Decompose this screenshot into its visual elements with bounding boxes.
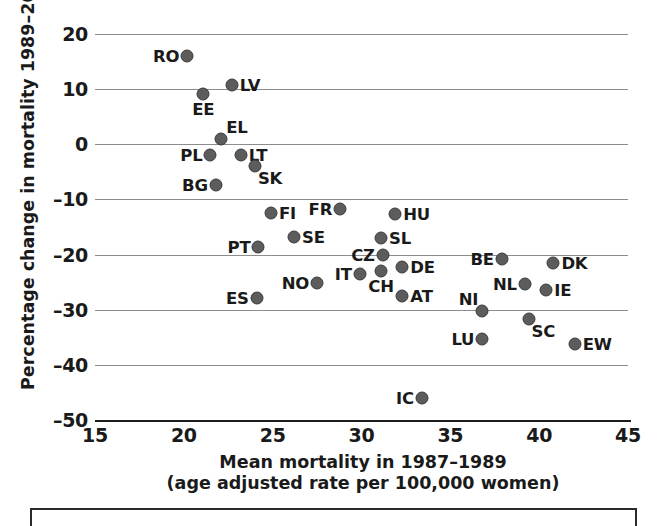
data-point-label: EE [192,100,214,119]
data-point [540,284,553,297]
data-point-label: CH [368,277,394,296]
y-axis-tick-label: –50 [18,409,88,431]
x-axis-title-line1: Mean mortality in 1987–1989 [95,452,631,473]
data-point-label: FR [309,199,333,218]
data-point [209,178,222,191]
x-axis-tick-label: 25 [260,424,286,446]
data-point-label: SK [258,168,282,187]
data-point [234,149,247,162]
data-point-label: HU [403,204,430,223]
y-axis-tick-label: –20 [18,244,88,266]
data-point-label: BG [182,175,208,194]
data-point-label: PT [228,237,251,256]
data-point-label: IC [396,389,414,408]
data-point-label: NL [493,274,517,293]
scatter-chart-figure: Percentage change in mortality 1989–2006… [0,0,667,526]
x-axis-tick-label: 30 [349,424,375,446]
y-axis-tick-label: 0 [18,133,88,155]
data-point-label: EL [226,118,247,137]
data-point-label: NO [282,274,309,293]
y-axis-tick-label: –30 [18,299,88,321]
data-point-label: SL [389,229,411,248]
data-point-label: NI [459,290,479,309]
data-point [376,248,389,261]
data-point [197,88,210,101]
data-point [518,277,531,290]
data-point [568,338,581,351]
data-point [375,232,388,245]
x-axis-tick-label: 35 [437,424,463,446]
data-point [287,230,300,243]
data-point-label: CZ [351,245,375,264]
data-point-label: EW [583,335,612,354]
data-point-label: SC [532,321,556,340]
y-axis-tick-label: –40 [18,354,88,376]
data-point-label: BE [470,249,493,268]
x-axis-line [95,420,631,422]
data-point-label: IT [335,264,352,283]
plot-area: ROLVEEELPLLTSKBGFIFRHUSESLPTCZBEDKDECHIT… [95,34,628,420]
x-axis-title-line2: (age adjusted rate per 100,000 women) [95,473,631,494]
y-axis-tick-label: 10 [18,78,88,100]
data-point [250,291,263,304]
data-point [396,261,409,274]
caption-box-right-edge [635,508,637,526]
x-axis-tick-label: 40 [526,424,552,446]
data-point [389,207,402,220]
y-axis-tick-label: 20 [18,23,88,45]
data-point-label: IE [554,281,571,300]
data-point [495,252,508,265]
data-point-label: FI [279,204,296,223]
data-point [225,79,238,92]
data-point-label: SE [302,227,325,246]
x-axis-tick-label: 20 [171,424,197,446]
x-axis-tick-label: 15 [82,424,108,446]
caption-box-left-edge [30,508,32,526]
x-axis-title: Mean mortality in 1987–1989 (age adjuste… [95,452,631,494]
data-point [334,202,347,215]
data-point [252,240,265,253]
data-point-label: AT [410,287,432,306]
data-point-label: ES [226,288,249,307]
y-axis-tick-label: –10 [18,188,88,210]
data-point-label: DK [561,253,587,272]
x-axis-tick-label: 45 [615,424,641,446]
data-point-label: LV [240,76,261,95]
data-point-label: PL [180,146,202,165]
data-point [375,265,388,278]
data-point-label: RO [153,47,179,66]
data-point [181,50,194,63]
data-point [415,392,428,405]
data-point [396,290,409,303]
data-point [264,207,277,220]
data-point-label: DE [410,258,435,277]
data-point [476,333,489,346]
data-point-label: LU [451,330,474,349]
data-point [353,267,366,280]
caption-box-top-rule [30,508,637,510]
data-point [204,149,217,162]
data-point [311,277,324,290]
data-point [547,256,560,269]
